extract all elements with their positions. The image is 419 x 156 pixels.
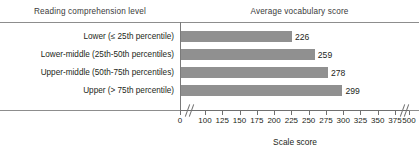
- x-axis-tick-label: 275: [319, 116, 332, 125]
- x-axis-tick: [222, 111, 223, 115]
- x-axis-tick-label: 100: [198, 116, 211, 125]
- table-row: Upper (> 75th percentile)299: [0, 82, 419, 99]
- x-axis-tick-label: 0: [178, 116, 182, 125]
- header-divider-top: [0, 22, 419, 23]
- table-row: Upper-middle (50th-75th percentiles)278: [0, 64, 419, 81]
- column-header-vocabulary-score: Average vocabulary score: [180, 7, 419, 16]
- x-axis-tick-label: 125: [216, 116, 229, 125]
- x-axis-tick-label: 225: [285, 116, 298, 125]
- x-axis-tick-label: 500: [402, 116, 415, 125]
- axis-break-right: [399, 104, 411, 117]
- x-axis-tick-label: 150: [233, 116, 246, 125]
- x-axis-tick-label: 175: [250, 116, 263, 125]
- bar: [181, 67, 328, 78]
- x-axis-tick-label: 375: [388, 116, 401, 125]
- axis-break-left: [184, 104, 196, 117]
- x-axis-line: [180, 110, 409, 111]
- x-axis-tick: [343, 111, 344, 115]
- x-axis-tick: [326, 111, 327, 115]
- bar: [181, 31, 292, 42]
- bar: [181, 85, 342, 96]
- x-axis-tick-label: 200: [267, 116, 280, 125]
- x-axis-tick: [180, 111, 181, 115]
- bar-value-label: 299: [345, 82, 359, 99]
- x-axis-tick: [378, 111, 379, 115]
- x-axis-tick: [240, 111, 241, 115]
- x-axis-tick-label: 300: [336, 116, 349, 125]
- bar: [181, 49, 315, 60]
- x-axis-tick: [291, 111, 292, 115]
- bar-value-label: 226: [295, 28, 309, 45]
- x-axis-tick: [395, 111, 396, 115]
- column-header-reading-level: Reading comprehension level: [0, 7, 180, 16]
- bar-value-label: 278: [331, 64, 345, 81]
- table-row: Lower-middle (25th-50th percentiles)259: [0, 46, 419, 63]
- bar-category-label: Lower-middle (25th-50th percentiles): [0, 46, 174, 63]
- x-axis-tick: [257, 111, 258, 115]
- x-axis-tick: [309, 111, 310, 115]
- bar-category-label: Upper (> 75th percentile): [0, 82, 174, 99]
- x-axis-tick-label: 250: [302, 116, 315, 125]
- x-axis-tick: [205, 111, 206, 115]
- x-axis-tick: [360, 111, 361, 115]
- vocabulary-score-bar-chart: Reading comprehension level Average voca…: [0, 0, 419, 156]
- x-axis-title: Scale score: [180, 137, 410, 147]
- bar-category-label: Lower (≤ 25th percentile): [0, 28, 174, 45]
- x-axis-tick: [274, 111, 275, 115]
- bar-category-label: Upper-middle (50th-75th percentiles): [0, 64, 174, 81]
- x-axis-tick-label: 350: [371, 116, 384, 125]
- bar-value-label: 259: [318, 46, 332, 63]
- table-row: Lower (≤ 25th percentile)226: [0, 28, 419, 45]
- x-axis-tick-label: 325: [354, 116, 367, 125]
